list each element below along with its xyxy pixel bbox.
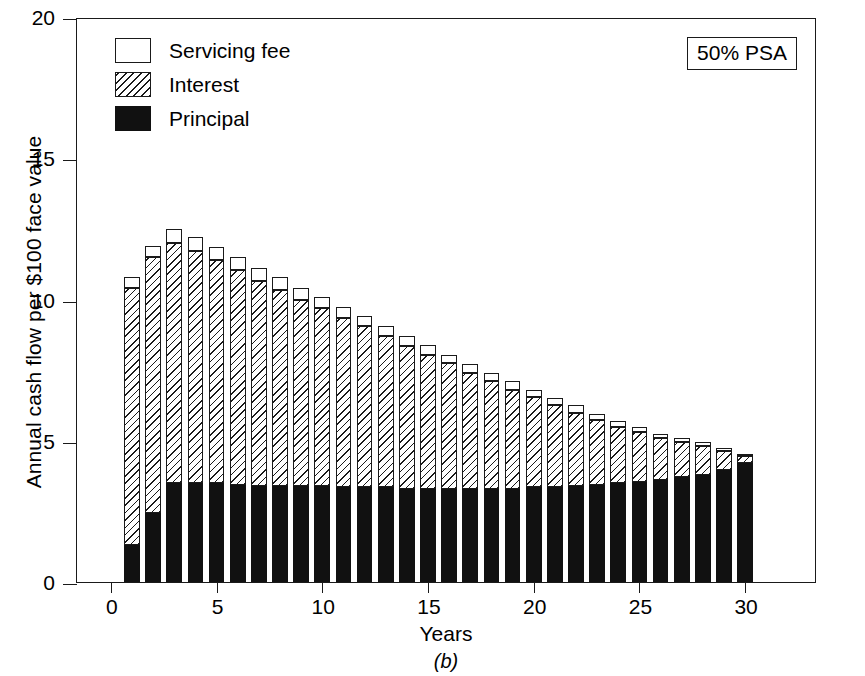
- y-tick-label-15: 15: [32, 147, 55, 171]
- bar-year-23: [589, 414, 605, 582]
- x-tick-30: 30: [745, 582, 746, 593]
- bar-year-29: [716, 448, 732, 582]
- bar-segment-servicing-fee-year-18: [484, 373, 500, 381]
- bar-year-27: [674, 438, 690, 582]
- bar-segment-servicing-fee-year-22: [568, 405, 584, 412]
- bar-segment-principal-year-7: [251, 486, 267, 582]
- bar-segment-servicing-fee-year-29: [716, 448, 732, 451]
- bar-segment-principal-year-10: [314, 486, 330, 582]
- y-tick-label-0: 0: [43, 571, 55, 595]
- x-tick-20: 20: [534, 582, 535, 593]
- bar-segment-interest-year-15: [420, 355, 436, 489]
- x-tick-10: 10: [322, 582, 323, 593]
- bar-year-13: [378, 326, 394, 582]
- y-tick-5: 5: [63, 443, 77, 444]
- bar-segment-servicing-fee-year-1: [124, 277, 140, 288]
- bar-segment-servicing-fee-year-14: [399, 336, 415, 346]
- figure-panel-b: Annual cash flow per $100 face value 051…: [0, 0, 865, 676]
- bar-year-19: [505, 381, 521, 582]
- bar-segment-servicing-fee-year-30: [737, 454, 753, 456]
- bar-segment-interest-year-29: [716, 451, 732, 471]
- bar-year-8: [272, 277, 288, 582]
- bar-segment-servicing-fee-year-25: [632, 427, 648, 433]
- bar-segment-servicing-fee-year-19: [505, 381, 521, 389]
- bar-segment-interest-year-20: [526, 397, 542, 487]
- bar-segment-principal-year-11: [336, 487, 352, 582]
- legend-swatch-servicing-fee-icon: [115, 38, 151, 63]
- legend-swatch-interest-icon: [115, 72, 151, 97]
- bar-segment-interest-year-17: [462, 373, 478, 489]
- bar-year-11: [336, 307, 352, 582]
- bar-segment-interest-year-27: [674, 442, 690, 477]
- bar-segment-interest-year-6: [230, 270, 246, 485]
- bar-year-28: [695, 442, 711, 582]
- bar-year-5: [209, 247, 225, 582]
- bar-year-16: [441, 355, 457, 582]
- bar-year-14: [399, 336, 415, 582]
- bar-year-12: [357, 316, 373, 582]
- bar-segment-servicing-fee-year-7: [251, 268, 267, 281]
- bar-year-4: [188, 237, 204, 582]
- x-tick-label-5: 5: [192, 595, 244, 619]
- bar-year-25: [632, 427, 648, 582]
- bar-year-7: [251, 268, 267, 582]
- x-tick-label-15: 15: [403, 595, 455, 619]
- bar-segment-principal-year-14: [399, 489, 415, 582]
- bar-segment-principal-year-21: [547, 487, 563, 582]
- bar-segment-servicing-fee-year-3: [166, 229, 182, 243]
- bar-segment-servicing-fee-year-13: [378, 326, 394, 336]
- bar-year-21: [547, 398, 563, 582]
- bar-segment-interest-year-12: [357, 326, 373, 487]
- bar-segment-interest-year-26: [653, 438, 669, 480]
- bar-segment-principal-year-29: [716, 470, 732, 582]
- x-tick-15: 15: [428, 582, 429, 593]
- bar-segment-servicing-fee-year-4: [188, 237, 204, 251]
- y-tick-0: 0: [63, 584, 77, 585]
- bar-segment-servicing-fee-year-17: [462, 364, 478, 372]
- bar-segment-interest-year-8: [272, 290, 288, 486]
- bar-segment-interest-year-7: [251, 281, 267, 486]
- bar-year-9: [293, 288, 309, 582]
- legend-label-interest: Interest: [169, 74, 239, 95]
- bar-segment-servicing-fee-year-11: [336, 307, 352, 318]
- bar-segment-principal-year-5: [209, 483, 225, 582]
- bar-year-18: [484, 373, 500, 582]
- bar-segment-interest-year-25: [632, 432, 648, 481]
- bar-segment-principal-year-4: [188, 483, 204, 582]
- bar-segment-interest-year-5: [209, 260, 225, 483]
- bar-segment-principal-year-22: [568, 486, 584, 582]
- bar-segment-principal-year-3: [166, 483, 182, 582]
- psa-annotation-box: 50% PSA: [687, 37, 797, 70]
- y-tick-label-5: 5: [43, 430, 55, 454]
- bar-segment-interest-year-2: [145, 257, 161, 513]
- bar-segment-principal-year-27: [674, 477, 690, 582]
- bar-segment-servicing-fee-year-10: [314, 297, 330, 308]
- bar-segment-interest-year-16: [441, 363, 457, 489]
- bar-segment-interest-year-3: [166, 243, 182, 483]
- bar-segment-principal-year-16: [441, 489, 457, 582]
- x-axis-title: Years: [76, 622, 816, 646]
- bar-segment-interest-year-10: [314, 308, 330, 486]
- bar-segment-principal-year-12: [357, 487, 373, 582]
- bar-segment-servicing-fee-year-5: [209, 247, 225, 260]
- bar-segment-interest-year-28: [695, 446, 711, 474]
- bar-segment-interest-year-22: [568, 413, 584, 486]
- bar-segment-principal-year-28: [695, 475, 711, 582]
- bar-segment-interest-year-18: [484, 381, 500, 488]
- bar-segment-servicing-fee-year-27: [674, 438, 690, 442]
- legend-item-servicing-fee: Servicing fee: [115, 33, 290, 67]
- legend-item-interest: Interest: [115, 67, 290, 101]
- bar-segment-principal-year-23: [589, 485, 605, 582]
- bar-segment-servicing-fee-year-20: [526, 390, 542, 397]
- bar-year-30: [737, 455, 753, 582]
- y-tick-15: 15: [63, 160, 77, 161]
- bar-year-10: [314, 297, 330, 582]
- bar-segment-principal-year-6: [230, 485, 246, 582]
- bar-segment-servicing-fee-year-26: [653, 434, 669, 438]
- bar-segment-servicing-fee-year-21: [547, 398, 563, 405]
- bar-segment-interest-year-11: [336, 318, 352, 488]
- legend-swatch-principal-icon: [115, 106, 151, 131]
- bar-segment-interest-year-4: [188, 251, 204, 483]
- x-tick-5: 5: [217, 582, 218, 593]
- legend-label-servicing-fee: Servicing fee: [169, 40, 290, 61]
